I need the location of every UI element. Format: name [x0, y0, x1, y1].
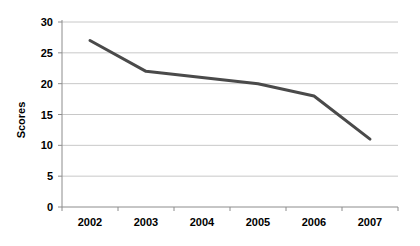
y-axis-title: Scores [15, 102, 27, 139]
y-tick-marks-group [58, 22, 62, 207]
x-tick-label: 2003 [134, 216, 158, 228]
gridlines-group [62, 22, 398, 176]
x-tick-marks-group [62, 207, 398, 211]
line-chart: 051015202530 200220032004200520062007 Sc… [0, 0, 420, 246]
x-tick-label: 2002 [78, 216, 102, 228]
x-tick-label: 2005 [246, 216, 270, 228]
y-tick-labels-group: 051015202530 [41, 16, 53, 213]
data-series-line [90, 41, 370, 140]
y-tick-label: 0 [47, 201, 53, 213]
chart-canvas: 051015202530 200220032004200520062007 Sc… [0, 0, 420, 246]
x-tick-label: 2007 [358, 216, 382, 228]
y-tick-label: 15 [41, 109, 53, 121]
x-tick-label: 2004 [190, 216, 215, 228]
y-tick-label: 20 [41, 78, 53, 90]
x-tick-label: 2006 [302, 216, 326, 228]
x-tick-labels-group: 200220032004200520062007 [78, 216, 382, 228]
y-tick-label: 30 [41, 16, 53, 28]
y-tick-label: 10 [41, 139, 53, 151]
y-tick-label: 25 [41, 47, 53, 59]
y-tick-label: 5 [47, 170, 53, 182]
